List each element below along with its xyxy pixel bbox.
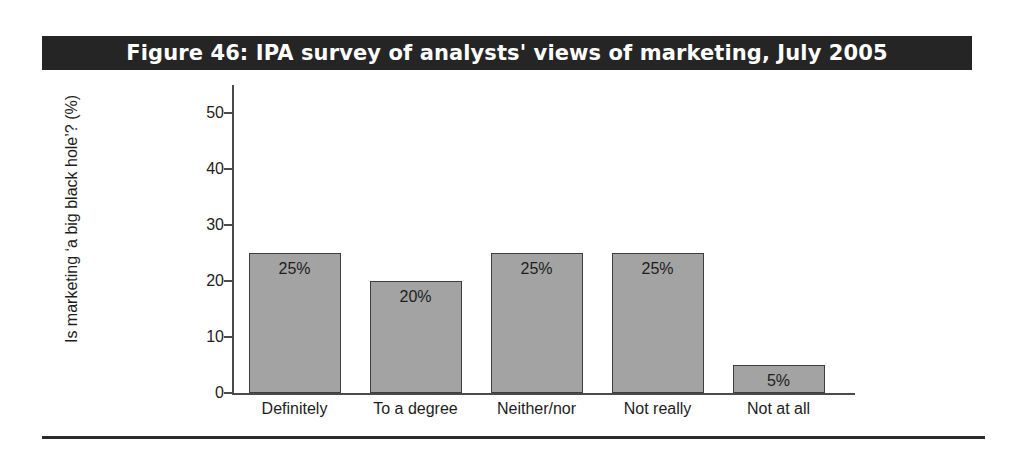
y-axis-tick-label: 10 <box>176 328 224 346</box>
x-axis-label-to-a-degree: To a degree <box>355 400 476 418</box>
y-axis-tick-mark <box>224 224 233 226</box>
bar-value-label: 25% <box>250 260 340 278</box>
y-axis-tick-mark <box>224 168 233 170</box>
bar-neither-nor: 25% <box>491 253 583 393</box>
bar-value-label: 20% <box>371 288 461 306</box>
y-axis-tick-label: 40 <box>176 160 224 178</box>
bar-value-label: 5% <box>734 372 824 390</box>
figure-title-bar: Figure 46: IPA survey of analysts' views… <box>42 36 972 70</box>
y-axis-tick-mark <box>224 336 233 338</box>
y-axis-tick-label: 50 <box>176 104 224 122</box>
page-title: Figure 46: IPA survey of analysts' views… <box>126 41 887 65</box>
y-axis-tick-label: 30 <box>176 216 224 234</box>
bar-to-a-degree: 20% <box>370 281 462 393</box>
bar-not-really: 25% <box>612 253 704 393</box>
x-axis-label-not-at-all: Not at all <box>718 400 839 418</box>
bar-definitely: 25% <box>249 253 341 393</box>
bar-value-label: 25% <box>613 260 703 278</box>
bar-not-at-all: 5% <box>733 365 825 393</box>
x-axis-label-definitely: Definitely <box>234 400 355 418</box>
x-axis-line <box>232 393 855 395</box>
bar-value-label: 25% <box>492 260 582 278</box>
y-axis-tick-label: 20 <box>176 272 224 290</box>
y-axis-line <box>232 85 234 395</box>
figure-bottom-rule <box>42 436 985 439</box>
y-axis-tick-label: 0 <box>176 384 224 402</box>
y-axis-title: Is marketing ‘a big black hole’? (%) <box>63 69 81 369</box>
x-axis-label-neither-nor: Neither/nor <box>476 400 597 418</box>
x-axis-label-not-really: Not really <box>597 400 718 418</box>
y-axis-tick-mark <box>224 280 233 282</box>
bar-chart: Is marketing ‘a big black hole’? (%) 010… <box>0 78 1022 423</box>
y-axis-tick-mark <box>224 112 233 114</box>
y-axis-tick-mark <box>224 392 233 394</box>
